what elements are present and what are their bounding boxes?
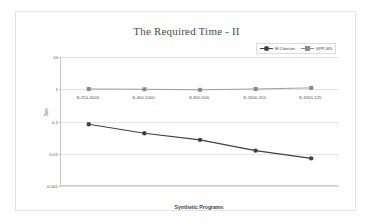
x-category-label: S-3200-125	[299, 95, 321, 100]
chart-title: The Required Time - II	[16, 25, 357, 37]
data-point-marker	[254, 87, 258, 91]
x-category-label: S-800-500	[189, 95, 209, 100]
chart-frame: The Required Time - II M.Checker KPP,J65…	[15, 11, 356, 211]
series-layer	[61, 57, 339, 186]
data-point-marker	[309, 156, 313, 160]
data-point-marker	[87, 122, 91, 126]
plot-area: 1010.10.010.001	[60, 57, 338, 186]
chart-legend: M.Checker KPP,J65	[256, 43, 336, 54]
legend-marker-m-checker	[260, 45, 273, 52]
data-point-marker	[87, 87, 91, 91]
y-tick-label: 0.1	[52, 119, 58, 124]
legend-marker-kpp	[301, 45, 314, 52]
y-tick-label: 0.001	[47, 184, 58, 189]
legend-entry-m-checker: M.Checker	[260, 45, 295, 52]
y-tick-label: 10	[53, 55, 58, 60]
data-point-marker	[198, 138, 202, 142]
gridline	[61, 186, 339, 187]
data-point-marker	[142, 131, 146, 135]
y-tick-label: 1	[56, 87, 58, 92]
legend-entry-kpp: KPP,J65	[301, 45, 332, 52]
data-point-marker	[198, 88, 202, 92]
y-tick-mark	[59, 186, 61, 187]
x-category-label: S-400-1000	[132, 95, 154, 100]
data-point-marker	[253, 148, 257, 152]
x-category-label: S-250-2000	[77, 95, 99, 100]
legend-label-m-checker: M.Checker	[275, 46, 295, 52]
y-axis-title: Sec	[44, 108, 49, 116]
y-tick-label: 0.01	[49, 151, 58, 156]
data-point-marker	[142, 87, 146, 91]
x-category-label: S-1600-250	[243, 95, 265, 100]
x-axis-title: Synthetic Programs	[60, 204, 338, 210]
legend-label-kpp: KPP,J65	[316, 46, 332, 52]
data-point-marker	[309, 86, 313, 90]
